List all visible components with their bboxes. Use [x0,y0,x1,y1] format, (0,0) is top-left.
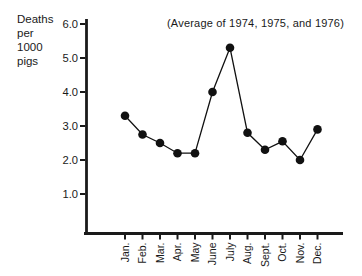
data-point [313,125,322,134]
data-point [243,129,252,138]
data-point [121,112,130,121]
data-point [156,139,165,148]
data-point [226,44,235,53]
x-tick-label: Nov. [294,243,306,264]
y-tick-label: 5.0 [62,52,78,64]
x-tick-label: Aug. [241,243,253,265]
data-point [296,156,305,165]
x-tick-label: Apr. [171,243,183,262]
y-tick-label: 3.0 [62,120,78,132]
y-tick-label: 6.0 [62,18,78,30]
deaths-per-1000-pigs-chart: Deaths per 1000 pigs (Average of 1974, 1… [0,0,362,276]
y-tick-label: 2.0 [62,154,78,166]
data-point [208,88,217,97]
x-tick-label: Dec. [311,243,323,265]
data-line [125,48,318,160]
data-point [138,130,147,139]
x-tick-label: Sept. [259,243,271,268]
data-point [278,137,287,146]
x-tick-label: July [224,242,236,261]
x-tick-label: Mar. [154,243,166,263]
x-tick-label: Feb. [136,243,148,264]
data-point [261,146,270,155]
y-tick-label: 4.0 [62,86,78,98]
x-tick-label: May [189,242,201,263]
x-tick-label: June [206,242,218,265]
data-point [173,149,182,158]
x-tick-label: Jan. [119,243,131,263]
plot-area: 1.02.03.04.05.06.0Jan.Feb.Mar.Apr.MayJun… [0,0,362,276]
data-point [191,149,200,158]
x-tick-label: Oct. [276,243,288,262]
y-tick-label: 1.0 [62,188,78,200]
